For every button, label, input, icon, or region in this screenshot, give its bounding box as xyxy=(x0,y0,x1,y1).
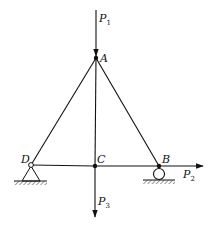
label-D: D xyxy=(20,153,30,166)
roller-circle xyxy=(154,169,165,180)
ground-hatch-D xyxy=(14,181,47,185)
member-AC xyxy=(95,58,96,166)
label-P2: P2 xyxy=(182,168,195,183)
label-P3: P3 xyxy=(97,195,110,210)
truss-members xyxy=(31,58,159,166)
loads xyxy=(95,10,203,217)
ground-hatch-B xyxy=(143,180,175,184)
label-B: B xyxy=(161,153,170,166)
member-AB xyxy=(96,58,159,166)
label-P1: P1 xyxy=(98,12,111,27)
truss-diagram: A D C B P1 P2 P3 xyxy=(0,0,219,226)
pin-support-D xyxy=(14,166,47,185)
member-AD xyxy=(31,58,96,165)
label-C: C xyxy=(97,153,106,166)
pin-support-triangle xyxy=(22,166,40,181)
joint-B xyxy=(157,164,161,168)
joint-A xyxy=(94,56,98,60)
label-A: A xyxy=(99,52,108,65)
roller-support-B xyxy=(143,169,175,185)
member-DC xyxy=(31,165,95,166)
